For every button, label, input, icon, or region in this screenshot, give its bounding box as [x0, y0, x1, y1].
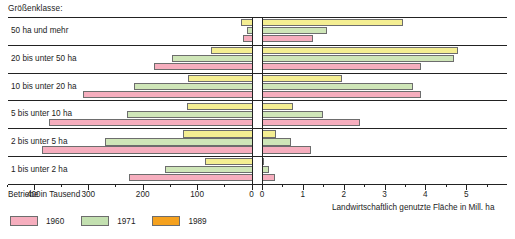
bar-1989-flaeche — [262, 130, 276, 137]
axis-tick-label: 4 — [423, 190, 428, 199]
left-panel-bars — [8, 129, 253, 156]
bar-1960-flaeche — [262, 174, 275, 181]
bar-1960-betriebe — [154, 63, 253, 70]
axis-tick-label: 5 — [464, 190, 469, 199]
left-axis-line — [8, 184, 254, 185]
axis-tick-minor — [61, 185, 62, 187]
bar-1971-flaeche — [262, 83, 413, 90]
axis-tick-minor — [7, 185, 8, 187]
axis-tick-label: 200 — [136, 190, 150, 199]
legend-item-1971: 1971 — [81, 216, 135, 226]
legend-label-1989: 1989 — [188, 217, 206, 226]
category-row: 1 bis unter 2 ha — [8, 156, 507, 184]
bar-1960-betriebe — [129, 174, 253, 181]
axis-tick-minor — [405, 185, 406, 187]
legend-item-1960: 1960 — [10, 216, 64, 226]
axis-tick-minor — [170, 185, 171, 187]
bar-1971-betriebe — [105, 138, 253, 145]
left-panel-baseline — [252, 17, 253, 184]
category-row: 2 bis unter 5 ha — [8, 128, 507, 156]
bar-1960-flaeche — [262, 91, 421, 98]
bar-1989-flaeche — [262, 47, 458, 54]
right-axis-title: Landwirtschaftlich genutzte Fläche in Mi… — [332, 203, 494, 212]
farm-size-butterfly-chart: Größenklasse: 50 ha und mehr20 bis unter… — [0, 0, 515, 239]
left-panel-bars — [8, 157, 253, 184]
bar-1960-betriebe — [83, 91, 253, 98]
bar-1960-flaeche — [262, 63, 421, 70]
axis-tick-minor — [224, 185, 225, 187]
plot-area: 50 ha und mehr20 bis unter 50 ha10 bis u… — [8, 17, 507, 184]
legend-swatch-1960 — [10, 216, 38, 226]
left-panel-bars — [8, 18, 253, 45]
legend-swatch-1971 — [81, 216, 109, 226]
bar-1989-flaeche — [262, 103, 293, 110]
legend-swatch-1989 — [152, 216, 180, 226]
legend-label-1960: 1960 — [46, 217, 64, 226]
axis-tick-minor — [323, 185, 324, 187]
bar-1971-betriebe — [165, 166, 253, 173]
right-panel-bars — [262, 129, 507, 156]
bar-1989-betriebe — [211, 47, 253, 54]
bar-1960-flaeche — [262, 119, 360, 126]
bar-1960-betriebe — [49, 119, 253, 126]
bar-1989-betriebe — [205, 158, 253, 165]
bar-1989-flaeche — [262, 75, 342, 82]
bar-1971-flaeche — [262, 138, 291, 145]
category-row: 20 bis unter 50 ha — [8, 45, 507, 73]
right-panel-bars — [262, 18, 507, 45]
bar-1989-betriebe — [183, 130, 253, 137]
legend-item-1989: 1989 — [152, 216, 206, 226]
bar-1971-betriebe — [172, 55, 253, 62]
category-row: 5 bis unter 10 ha — [8, 100, 507, 128]
bar-1971-betriebe — [127, 111, 253, 118]
axis-tick-label: 0 — [249, 190, 254, 199]
bar-1971-betriebe — [134, 83, 253, 90]
legend: 196019711989 — [10, 213, 224, 229]
axis-tick-minor — [446, 185, 447, 187]
bar-1989-flaeche — [262, 19, 403, 26]
bar-1989-betriebe — [187, 103, 253, 110]
axis-tick-label: 2 — [341, 190, 346, 199]
left-axis-title: Betriebe in Tausend — [8, 190, 80, 199]
right-panel-baseline — [262, 17, 263, 184]
size-class-heading: Größenklasse: — [8, 4, 63, 13]
bar-1971-flaeche — [262, 111, 323, 118]
right-panel-bars — [262, 74, 507, 101]
right-panel-bars — [262, 101, 507, 128]
bar-1960-flaeche — [262, 35, 313, 42]
left-panel-bars — [8, 101, 253, 128]
left-panel-bars — [8, 74, 253, 101]
axis-tick-label: 300 — [81, 190, 95, 199]
axis-strip: 4003002001000 012345 — [8, 184, 507, 202]
axis-tick-label: 1 — [301, 190, 306, 199]
axis-tick-minor — [487, 185, 488, 187]
bar-1960-betriebe — [42, 146, 253, 153]
right-panel-bars — [262, 46, 507, 73]
axis-tick-minor — [282, 185, 283, 187]
axis-tick-minor — [115, 185, 116, 187]
right-panel-bars — [262, 157, 507, 184]
category-row: 50 ha und mehr — [8, 17, 507, 45]
bar-1960-flaeche — [262, 146, 311, 153]
axis-tick-label: 3 — [382, 190, 387, 199]
category-row: 10 bis unter 20 ha — [8, 73, 507, 101]
left-panel-bars — [8, 46, 253, 73]
bar-1971-flaeche — [262, 55, 454, 62]
legend-label-1971: 1971 — [117, 217, 135, 226]
axis-tick-minor — [364, 185, 365, 187]
bar-1989-betriebe — [188, 75, 253, 82]
bar-1971-flaeche — [262, 27, 327, 34]
axis-tick-label: 100 — [190, 190, 204, 199]
axis-tick-label: 0 — [260, 190, 265, 199]
